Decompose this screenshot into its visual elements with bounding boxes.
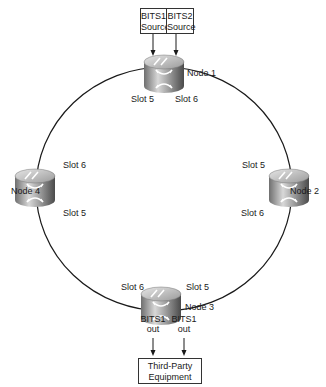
bits1-out-left-label: BITS1 out (139, 314, 167, 334)
node1-label: Node 1 (187, 68, 216, 78)
bits2-source-sublabel: Source (167, 22, 193, 33)
ring-fiber (36, 67, 292, 311)
node1-slot6-label: Slot 6 (175, 94, 198, 104)
bits1-out-right-line1: BITS1 (170, 314, 198, 324)
bits1-out-left-line1: BITS1 (139, 314, 167, 324)
third-party-equipment-box: Third-Party Equipment (138, 358, 202, 384)
node4-slot5-label: Slot 5 (63, 208, 86, 218)
bits1-out-right-label: BITS1 out (170, 314, 198, 334)
node2-slot5-label: Slot 5 (242, 160, 265, 170)
node1-router-icon (144, 55, 184, 93)
node4-slot6-label: Slot 6 (63, 160, 86, 170)
bits2-source-box: BITS2 Source (166, 8, 194, 34)
node1-slot5-label: Slot 5 (131, 94, 154, 104)
bits1-source-label: BITS1 (141, 11, 166, 22)
node2-slot6-label: Slot 6 (241, 208, 264, 218)
node3-slot6-label: Slot 6 (121, 282, 144, 292)
node3-slot5-label: Slot 5 (186, 282, 209, 292)
equipment-label-line2: Equipment (139, 372, 201, 383)
bits1-out-left-line2: out (139, 324, 167, 334)
equipment-label-line1: Third-Party (139, 361, 201, 372)
node3-label: Node 3 (185, 302, 214, 312)
bits2-source-label: BITS2 (167, 11, 193, 22)
bits1-source-sublabel: Source (141, 22, 166, 33)
bits1-source-box: BITS1 Source (140, 8, 167, 34)
node4-label: Node 4 (11, 186, 40, 196)
bits1-out-right-line2: out (170, 324, 198, 334)
node2-label: Node 2 (290, 186, 319, 196)
